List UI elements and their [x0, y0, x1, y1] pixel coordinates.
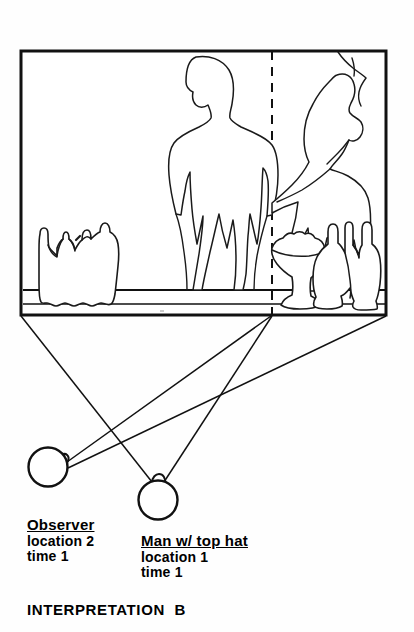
sightline-right-edge-to-observer: [68, 316, 386, 468]
man-with-top-hat-label-block: Man w/ top hat location 1 time 1: [141, 533, 248, 581]
observer-label-block: Observer location 2 time 1: [27, 517, 94, 565]
man-with-top-hat-label-title: Man w/ top hat: [141, 533, 248, 550]
observer-label-location: location 2: [27, 534, 94, 550]
observer-label-title: Observer: [27, 517, 94, 534]
observer-head-marker: [29, 448, 68, 487]
observer-label-time: time 1: [27, 549, 94, 565]
sightline-divider-to-tophat: [164, 316, 272, 482]
interpretation-caption: INTERPRETATION B: [27, 601, 186, 618]
man-with-top-hat-label-location: location 1: [141, 550, 248, 566]
man-with-top-hat-label-time: time 1: [141, 565, 248, 581]
interpretation-diagram: Observer location 2 time 1 Man w/ top ha…: [0, 0, 414, 632]
sightline-divider-to-observer: [67, 316, 271, 462]
man-with-top-hat-head-marker: [139, 481, 178, 520]
